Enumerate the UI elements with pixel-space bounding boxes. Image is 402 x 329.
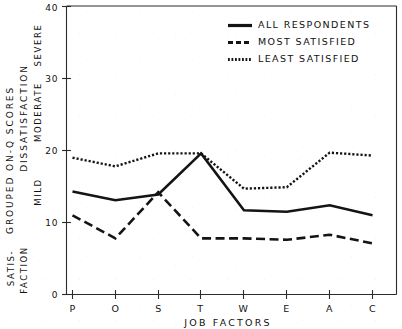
y-zone-label-moderate: MODERATE [33, 82, 43, 142]
series-line-all-respondents [73, 153, 373, 215]
legend-item-least-satisfied[interactable]: LEAST SATISFIED [228, 53, 360, 64]
x-axis-category-labels: P O S T W E A C [69, 303, 376, 314]
x-axis-title: JOB FACTORS [183, 317, 272, 328]
y-tick-label-10: 10 [45, 218, 58, 228]
x-label-w: W [239, 303, 249, 314]
x-label-o: O [112, 303, 120, 314]
y-tick-label-30: 30 [45, 74, 58, 84]
y-tick-label-40: 40 [45, 3, 58, 13]
y-tick-label-0: 0 [52, 290, 58, 300]
legend-label-most-satisfied: MOST SATISFIED [258, 36, 356, 47]
x-label-a: A [326, 303, 333, 314]
x-label-c: C [369, 303, 376, 314]
legend-item-most-satisfied[interactable]: MOST SATISFIED [228, 36, 356, 47]
x-label-e: E [283, 303, 290, 314]
legend-label-all-respondents: ALL RESPONDENTS [258, 19, 370, 30]
y-zone-label-severe: SEVERE [33, 24, 43, 67]
legend-label-least-satisfied: LEAST SATISFIED [258, 53, 360, 64]
data-series-group [73, 153, 373, 244]
y-tick-label-20: 20 [45, 146, 58, 156]
y-zone-label-satis-1: SATIS- [6, 250, 16, 286]
x-label-p: P [69, 303, 75, 314]
y-axis-tick-labels: 0 10 20 30 40 [45, 3, 58, 300]
x-label-s: S [155, 303, 162, 314]
y-axis-subtitle: DISSATISFACTION [19, 64, 29, 172]
line-chart: 0 10 20 30 40 P O S T W E A C [0, 0, 402, 329]
chart-figure: 0 10 20 30 40 P O S T W E A C [0, 0, 402, 329]
x-label-t: T [196, 303, 203, 314]
plot-axes [67, 6, 397, 295]
chart-legend: ALL RESPONDENTS MOST SATISFIED LEAST SAT… [228, 19, 370, 64]
y-axis-title: GROUPED ON-Q SCORES [5, 86, 15, 234]
y-zone-label-satis-2: FACTION [19, 246, 29, 294]
y-zone-label-mild: MILD [33, 178, 43, 206]
legend-item-all-respondents[interactable]: ALL RESPONDENTS [228, 19, 370, 30]
